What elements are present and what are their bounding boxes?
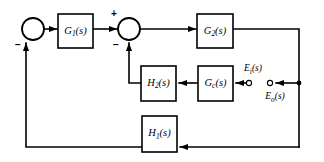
summing-junction-1[interactable]: − (15, 18, 44, 50)
block-h1-suffix: (s) (160, 127, 172, 139)
block-h2[interactable]: H2(s) (141, 66, 176, 101)
sum2-minus-sign: − (113, 39, 119, 50)
label-ei-suffix: (s) (252, 63, 262, 74)
terminal-ei-circle[interactable] (246, 80, 251, 85)
block-h2-suffix: (s) (159, 77, 171, 89)
block-gc[interactable]: Gc(s) (198, 66, 233, 101)
sum1-minus-sign: − (15, 39, 21, 50)
wire-h1-to-sum1 (26, 43, 142, 147)
wire-h2-to-sum2 (129, 43, 141, 83)
sum2-plus-sign: + (111, 8, 117, 19)
block-gc-suffix: (s) (215, 77, 227, 89)
terminal-eo-circle[interactable] (267, 80, 272, 85)
block-g2-suffix: (s) (215, 25, 227, 37)
block-g1[interactable]: G1(s) (58, 14, 93, 48)
label-ei: Ei(s) (243, 63, 262, 75)
wire-g2-to-right-rail (233, 29, 299, 83)
blocks-group: G1(s) G2(s) H2(s) Gc(s) (58, 14, 233, 152)
block-h1[interactable]: H1(s) (142, 116, 177, 152)
block-g2[interactable]: G2(s) (197, 14, 233, 48)
label-eo-suffix: (s) (275, 91, 285, 102)
block-diagram-canvas: G1(s) G2(s) H2(s) Gc(s) (0, 0, 324, 162)
junction-dot-right-rail (297, 81, 302, 86)
block-g1-suffix: (s) (76, 25, 88, 37)
label-eo: Eo(s) (264, 91, 285, 103)
block-diagram-svg: G1(s) G2(s) H2(s) Gc(s) (0, 0, 324, 162)
